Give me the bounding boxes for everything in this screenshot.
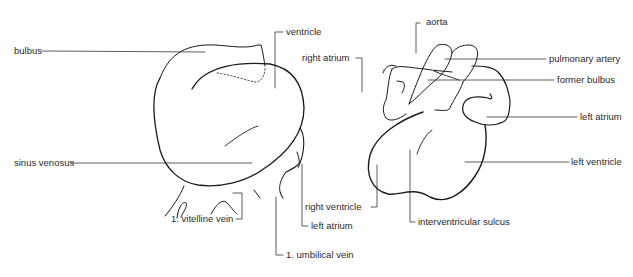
label-right-atrium: right atrium [302, 53, 350, 63]
label-bulbus: bulbus [14, 46, 42, 56]
label-interventricular-sulcus: interventricular sulcus [418, 217, 510, 227]
label-pulmonary-artery: pulmonary artery [549, 54, 620, 64]
label-umbilical-vein: 1. umbilical vein [286, 250, 354, 260]
label-sinus-venosus: sinus venosus [14, 158, 74, 168]
label-left-atrium: left atrium [580, 112, 622, 122]
label-left-atrium-early: left atrium [311, 221, 353, 231]
label-left-ventricle: left ventricle [571, 157, 622, 167]
label-right-ventricle: right ventricle [305, 202, 362, 212]
label-ventricle: ventricle [286, 27, 321, 37]
heart-development-diagram [0, 0, 633, 277]
label-aorta: aorta [426, 17, 448, 27]
label-former-bulbus: former bulbus [557, 75, 615, 85]
vitelline-leader [233, 193, 242, 219]
label-vitelline-vein: 1. vitelline vein [171, 214, 233, 224]
later-heart-drawing [368, 44, 510, 199]
early-heart-drawing [154, 45, 304, 218]
